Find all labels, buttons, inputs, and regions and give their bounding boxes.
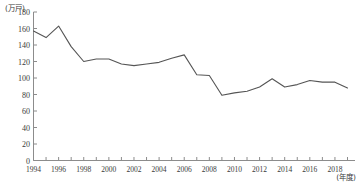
x-tick-mark-group	[34, 157, 348, 161]
y-tick-label: 160	[18, 25, 30, 34]
y-tick-mark-group	[34, 12, 38, 161]
x-axis-unit-group: (年度)	[336, 172, 356, 182]
data-series-group	[34, 26, 348, 95]
chart-canvas: (万戸) 020406080100120140160180 1994199619…	[0, 0, 358, 186]
x-tick-label: 2016	[302, 165, 317, 174]
line-chart: (万戸) 020406080100120140160180 1994199619…	[0, 0, 358, 186]
y-tick-label: 140	[18, 41, 30, 50]
y-tick-label: 100	[18, 74, 30, 83]
x-tick-label: 2010	[227, 165, 242, 174]
x-tick-label: 1998	[76, 165, 91, 174]
y-tick-label: 60	[22, 107, 30, 116]
x-tick-label: 2008	[202, 165, 217, 174]
x-tick-label: 2004	[152, 165, 167, 174]
x-tick-label: 1996	[51, 165, 66, 174]
series-line	[34, 26, 348, 95]
x-tick-label: 1994	[26, 165, 41, 174]
x-tick-label: 2012	[252, 165, 267, 174]
y-tick-label: 120	[18, 58, 30, 67]
y-tick-label: 40	[22, 124, 30, 133]
y-tick-label: 180	[18, 8, 30, 17]
x-tick-label: 2000	[101, 165, 116, 174]
x-tick-label: 2014	[277, 165, 292, 174]
x-tick-label-group: 1994199619982000200220042006200820102012…	[26, 165, 343, 174]
x-axis-unit-label: (年度)	[336, 172, 356, 182]
x-tick-label: 2006	[177, 165, 192, 174]
y-tick-label: 20	[22, 140, 30, 149]
y-tick-label: 80	[22, 91, 30, 100]
y-tick-label-group: 020406080100120140160180	[18, 8, 30, 166]
x-tick-label: 2002	[126, 165, 141, 174]
